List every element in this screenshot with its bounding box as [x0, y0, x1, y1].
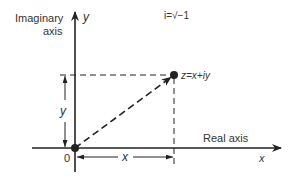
real-axis-label: Real axis — [203, 132, 249, 144]
imaginary-axis-label-line1: Imaginary — [15, 12, 64, 24]
imaginary-axis-label-line2: axis — [43, 25, 63, 37]
x-dimension-label: x — [121, 150, 129, 164]
point-z — [170, 71, 178, 79]
imaginary-axis-variable: y — [82, 10, 90, 24]
origin-point — [71, 144, 79, 152]
vector-to-z — [75, 78, 170, 148]
complex-plane-diagram: Imaginary axis y i=√−1 z=x+iy y x 0 Real… — [0, 0, 297, 181]
y-dimension-label: y — [59, 104, 67, 118]
definition-label: i=√−1 — [164, 10, 189, 21]
point-z-label: z=x+iy — [180, 70, 211, 81]
real-axis-variable: x — [258, 152, 265, 164]
origin-label: 0 — [64, 152, 70, 164]
